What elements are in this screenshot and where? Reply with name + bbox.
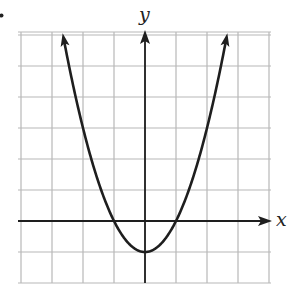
axes	[18, 30, 272, 283]
parabola-graph: y x	[0, 0, 288, 295]
bullet-mark	[0, 14, 4, 18]
y-axis-label: y	[138, 3, 150, 25]
x-axis-label: x	[276, 208, 287, 230]
